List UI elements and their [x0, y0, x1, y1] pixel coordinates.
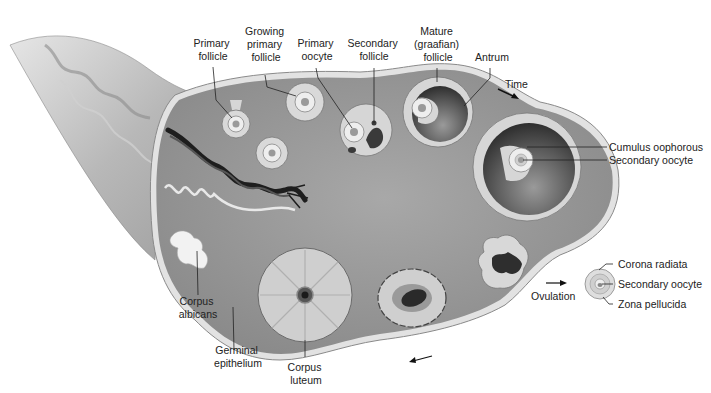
corpus-luteum — [258, 248, 352, 342]
label-cumulus-oophorous: Cumulus oophorous — [609, 141, 703, 153]
label-corona-radiata: Corona radiata — [618, 258, 688, 270]
label-time: Time — [505, 78, 528, 90]
ovary-diagram: Primary follicle Growing primary follicl… — [0, 0, 711, 393]
label-primary-follicle: Primary follicle — [193, 37, 232, 62]
label-corpus-albicans: Corpus albicans — [179, 295, 218, 320]
label-growing-primary-follicle: Growing primary follicle — [245, 25, 287, 63]
label-mature-follicle: Mature (graafian) follicle — [414, 25, 462, 63]
cycle-arrow — [409, 356, 432, 363]
label-zona-pellucida: Zona pellucida — [618, 298, 686, 310]
label-secondary-oocyte: Secondary oocyte — [609, 154, 693, 166]
secondary-follicle — [340, 104, 392, 156]
label-primary-oocyte: Primary oocyte — [297, 37, 336, 62]
label-antrum: Antrum — [475, 51, 509, 63]
label-ovulation: Ovulation — [531, 290, 576, 302]
mature-follicle — [403, 77, 473, 147]
large-mature-follicle — [473, 113, 581, 221]
label-corpus-luteum: Corpus luteum — [288, 361, 325, 386]
ovulation-arrow — [546, 280, 567, 286]
label-released-secondary-oocyte: Secondary oocyte — [618, 278, 702, 290]
primary-follicle-2 — [256, 137, 288, 169]
degenerating-corpus-luteum — [378, 269, 446, 327]
label-germinal-epithelium: Germinal epithelium — [214, 344, 262, 369]
label-secondary-follicle: Secondary follicle — [347, 37, 400, 62]
growing-primary-follicle — [286, 83, 324, 121]
